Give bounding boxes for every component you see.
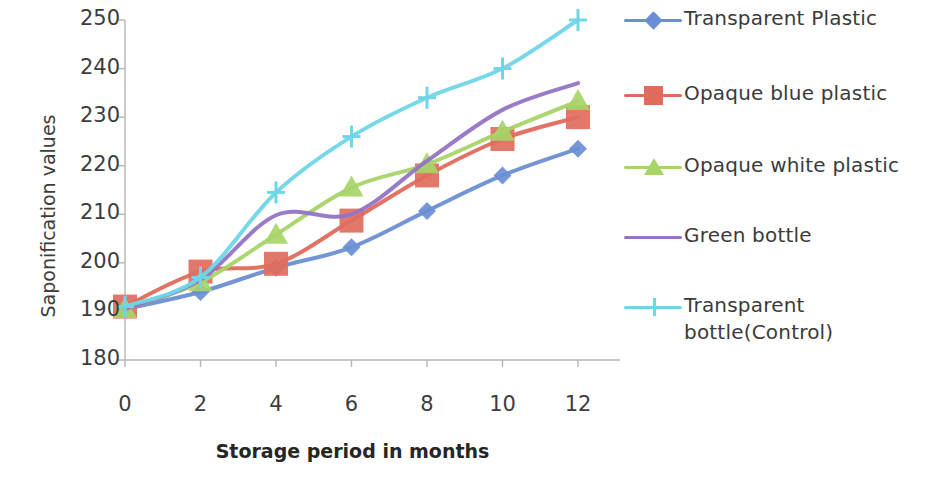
y-axis-tick-label: 240 — [64, 57, 120, 78]
y-axis-tick-label: 210 — [64, 202, 120, 223]
x-axis-tick-label: 12 — [558, 392, 598, 416]
legend-marker-triangle-icon — [644, 158, 664, 175]
legend-item[interactable]: Transparent Plastic — [622, 5, 937, 33]
y-axis-tick-label: 230 — [64, 105, 120, 126]
legend-marker-square-icon — [644, 86, 663, 105]
legend-label: Opaque white plastic — [684, 152, 899, 179]
legend-key-none-icon — [622, 224, 684, 250]
legend-line-swatch — [624, 236, 682, 239]
y-axis-tick-label: 190 — [64, 299, 120, 320]
legend-item[interactable]: Opaque blue plastic — [622, 80, 937, 108]
legend-label: Transparent Plastic — [684, 5, 877, 32]
legend-marker-cross-icon — [646, 298, 662, 316]
legend-key-square-icon — [622, 82, 684, 108]
legend-label: Green bottle — [684, 222, 812, 249]
x-axis-tick-label: 4 — [256, 392, 296, 416]
x-axis-tick-label: 10 — [483, 392, 523, 416]
legend-key-cross-icon — [622, 294, 684, 320]
legend-marker-diamond-icon — [644, 11, 662, 29]
x-axis-tick-label: 0 — [105, 392, 145, 416]
x-axis-tick-label: 6 — [332, 392, 372, 416]
legend-item[interactable]: Transparent bottle(Control) — [622, 292, 937, 346]
x-axis-tick-label: 8 — [407, 392, 447, 416]
legend-label: Opaque blue plastic — [684, 80, 887, 107]
y-axis-title: Saponification values — [37, 96, 59, 336]
cross-vertical — [653, 298, 656, 316]
legend-key-diamond-icon — [622, 7, 684, 33]
x-axis-title: Storage period in months — [125, 440, 580, 462]
legend-item[interactable]: Green bottle — [622, 222, 937, 250]
y-axis-tick-label: 220 — [64, 154, 120, 175]
y-axis-tick-label: 250 — [64, 8, 120, 29]
series-opaque-white-plastic — [113, 89, 590, 318]
chart-legend: Transparent PlasticOpaque blue plasticOp… — [622, 0, 937, 478]
y-axis-tick-label: 200 — [64, 251, 120, 272]
chart-root: 180190200210220230240250 024681012 Sapon… — [0, 0, 937, 478]
legend-item[interactable]: Opaque white plastic — [622, 152, 937, 180]
y-axis-tick-label: 180 — [64, 348, 120, 369]
legend-key-triangle-icon — [622, 154, 684, 180]
plot-area: 180190200210220230240250 024681012 Sapon… — [0, 0, 620, 478]
x-axis-tick-label: 2 — [181, 392, 221, 416]
y-axis-tick-labels: 180190200210220230240250 — [60, 0, 120, 420]
series-transparent-bottle-control — [116, 9, 587, 318]
legend-label: Transparent bottle(Control) — [684, 292, 884, 346]
